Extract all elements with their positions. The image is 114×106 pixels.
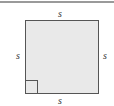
side-label-right: s <box>103 51 107 61</box>
top-divider <box>0 1 114 3</box>
side-label-bottom: s <box>58 96 62 106</box>
side-label-top: s <box>58 9 62 19</box>
side-label-left: s <box>16 51 20 61</box>
right-angle-marker-icon <box>25 80 38 93</box>
